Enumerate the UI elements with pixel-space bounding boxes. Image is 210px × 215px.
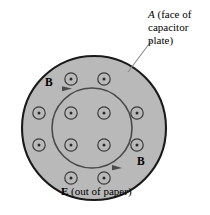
e-field-marker-dot bbox=[103, 112, 106, 115]
e-field-marker-dot bbox=[70, 144, 73, 147]
e-field-marker-dot bbox=[103, 78, 106, 81]
plate-label: A (face of capacitor plate) bbox=[148, 8, 191, 47]
e-field-marker-dot bbox=[103, 144, 106, 147]
plate-label-symbol: A bbox=[148, 8, 155, 20]
e-field-marker-dot bbox=[70, 78, 73, 81]
e-field-marker-dot bbox=[136, 112, 139, 115]
b-field-label-bottom: B bbox=[137, 155, 145, 169]
b-field-label-top: B bbox=[45, 76, 53, 90]
e-field-marker-dot bbox=[70, 177, 73, 180]
e-field-marker-dot bbox=[38, 144, 41, 147]
e-field-label: E (out of paper) bbox=[61, 185, 132, 198]
e-field-marker-dot bbox=[38, 112, 41, 115]
e-field-marker-dot bbox=[70, 112, 73, 115]
e-field-label-rest: (out of paper) bbox=[68, 185, 131, 197]
plate-label-line1-rest: (face of bbox=[155, 8, 192, 20]
capacitor-plate-figure: A (face of capacitor plate) B B E (out o… bbox=[0, 0, 210, 215]
plate-label-line1: A (face of bbox=[148, 8, 191, 21]
plate-label-line2: capacitor bbox=[148, 21, 191, 34]
capacitor-plate-disk bbox=[22, 56, 166, 200]
e-field-marker-dot bbox=[136, 144, 139, 147]
e-field-marker-dot bbox=[103, 177, 106, 180]
plate-label-line3: plate) bbox=[148, 34, 191, 47]
